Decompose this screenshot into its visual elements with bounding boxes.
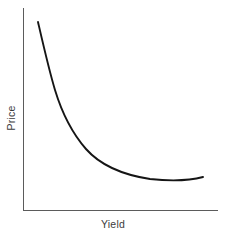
- chart-plot-area: [0, 0, 226, 236]
- y-axis-label: Price: [5, 105, 17, 131]
- price-yield-chart: Yield Price: [0, 0, 226, 236]
- x-axis-label: Yield: [0, 218, 226, 230]
- price-yield-curve: [38, 22, 203, 180]
